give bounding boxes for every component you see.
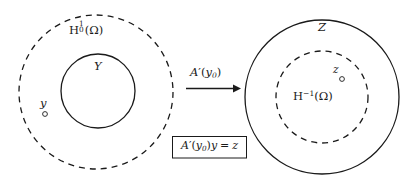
diagram-figure: H10(Ω) Y y A′(y0) A′(y0)y=z Z z H−1(Ω) — [0, 0, 411, 182]
map-arrow — [186, 84, 241, 92]
right-inner-set-label-superscript: −1 — [303, 89, 314, 98]
left-outer-set-label: H10(Ω) — [69, 22, 103, 36]
equation-equals-sign: = — [217, 139, 232, 152]
left-outer-set-label-argument: (Ω) — [85, 23, 104, 37]
point-y-label: y — [40, 98, 47, 110]
point-z-marker — [340, 77, 345, 82]
right-inner-set-label-base: H — [293, 89, 303, 103]
right-inner-set-label: H−1(Ω) — [293, 90, 333, 102]
diagram-canvas — [0, 0, 411, 182]
equation-box-text: A′(y0)y=z — [181, 140, 238, 152]
point-z-label: z — [333, 64, 339, 75]
map-arrow-head — [233, 84, 241, 92]
right-outer-set-label: Z — [318, 22, 326, 34]
left-outer-set-label-base: H — [69, 23, 79, 37]
left-inner-set-label: Y — [94, 61, 102, 73]
equation-right-hand-side: z — [232, 139, 238, 152]
map-arrow-label-paren-close: ) — [217, 65, 222, 79]
left-outer-set-label-subscript: 0 — [79, 26, 84, 33]
equation-operator: A — [181, 139, 189, 152]
right-inner-set-label-argument: (Ω) — [314, 89, 333, 103]
map-arrow-label: A′(y0) — [190, 67, 221, 80]
left-outer-set-label-scripts: 10 — [79, 22, 85, 34]
point-y-marker — [43, 112, 48, 117]
left-outer-set-circle — [19, 15, 173, 169]
